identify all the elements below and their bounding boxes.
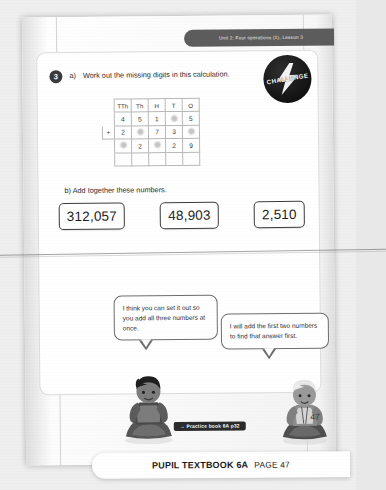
table-row: 4 5 1 5 [102, 112, 199, 126]
page-number: 47 [310, 412, 320, 422]
question-number-badge: 3 [49, 70, 62, 83]
row-3-cell-t: 2 [166, 139, 183, 153]
question-row: 3 a) Work out the missing digits in this… [49, 69, 257, 83]
row-3-sign [103, 139, 115, 153]
practice-book-link[interactable]: → Practice book 6A p32 [174, 421, 246, 431]
row-1-sign [102, 113, 114, 127]
challenge-badge: CHALLENGE [263, 55, 311, 103]
speech-bubble-right: I will add the first two numbers to find… [221, 313, 329, 350]
row-2-cell-th [131, 126, 148, 140]
missing-digit-smudge [135, 127, 146, 138]
row-4-cell-th [132, 152, 149, 166]
part-a-text: Work out the missing digits in this calc… [83, 70, 230, 81]
part-a-label: a) [69, 71, 76, 80]
speech-bubble-tail [262, 349, 276, 359]
caption-page: PAGE 47 [254, 460, 290, 470]
number-boxes-row: 312,057 48,903 2,510 [59, 201, 305, 230]
missing-digit-smudge [186, 126, 197, 137]
header-cell-h: H [148, 99, 165, 113]
character-child-light-hair [275, 377, 334, 446]
row-2-sign: + [102, 126, 114, 140]
row-2-cell-tth: 2 [114, 126, 131, 140]
row-4-cell-h [149, 152, 166, 166]
caption-bar: PUPIL TEXTBOOK 6A PAGE 47 [92, 451, 350, 479]
row-1-cell-th: 5 [131, 112, 148, 126]
row-3-cell-tth [115, 139, 132, 153]
row-3-cell-h [149, 139, 166, 153]
row-1-cell-tth: 4 [114, 112, 131, 126]
row-1-cell-h: 1 [148, 112, 165, 126]
row-1-cell-o: 5 [182, 112, 199, 126]
content-panel: CHALLENGE 3 a) Work out the missing digi… [36, 50, 321, 396]
table-header-row: TTh Th H T O [102, 98, 199, 112]
character-child-dark-hair [117, 372, 180, 445]
speech-bubble-left-text: I think you can set it out so you add al… [123, 304, 206, 331]
table-row: 2 2 9 [103, 138, 200, 152]
part-b-text: Add together these numbers. [73, 185, 167, 195]
missing-digit-smudge [152, 140, 163, 151]
row-4-sign [103, 153, 115, 167]
row-4-cell-o [183, 152, 200, 166]
header-cell-t: T [165, 98, 182, 112]
row-2-cell-h: 7 [148, 125, 165, 139]
row-2-cell-o [182, 125, 199, 139]
textbook-page: Unit 2: Four operations (1), Lesson 3 CH… [22, 15, 336, 466]
table-row [103, 152, 200, 166]
row-4-cell-tth [115, 153, 132, 167]
place-value-table-wrapper: TTh Th H T O 4 5 1 5 + [102, 98, 201, 167]
row-1-cell-t [165, 112, 182, 126]
place-value-table: TTh Th H T O 4 5 1 5 + [102, 98, 201, 167]
speech-bubble-left: I think you can set it out so you add al… [114, 295, 218, 341]
speech-bubble-right-text: I will add the first two numbers to find… [230, 322, 318, 340]
row-4-cell-t [166, 152, 183, 166]
speech-bubble-tail [139, 341, 153, 351]
row-3-cell-o: 9 [183, 138, 200, 152]
unit-banner: Unit 2: Four operations (1), Lesson 3 [184, 29, 334, 47]
part-b-label: b) [64, 186, 71, 195]
number-box-3: 2,510 [254, 201, 305, 228]
missing-digit-smudge [169, 113, 180, 124]
row-3-cell-th: 2 [132, 139, 149, 153]
header-cell-o: O [182, 98, 199, 112]
caption-title: PUPIL TEXTBOOK 6A [152, 460, 248, 471]
row-2-cell-t: 3 [165, 125, 182, 139]
part-b-line: b) Add together these numbers. [64, 185, 166, 195]
number-box-1: 312,057 [59, 203, 125, 231]
header-cell-th: Th [131, 99, 148, 113]
header-sign-cell [102, 99, 114, 113]
table-row: + 2 7 3 [102, 125, 199, 139]
header-cell-tth: TTh [114, 99, 131, 113]
missing-digit-smudge [118, 140, 129, 151]
unit-banner-label: Unit 2: Four operations (1), Lesson 3 [219, 35, 303, 41]
number-box-2: 48,903 [160, 202, 219, 230]
